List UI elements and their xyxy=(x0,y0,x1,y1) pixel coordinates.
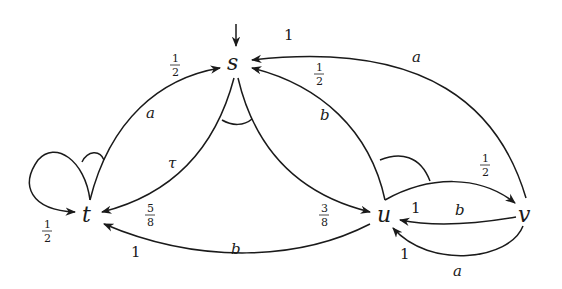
label-u-t-prob: 1 xyxy=(131,243,141,261)
branch-arc-u xyxy=(380,156,430,181)
automaton-diagram: s t u v 1 2 a 1 2 τ 5 8 3 8 1 2 b 1 a 1 … xyxy=(0,0,562,289)
svg-text:8: 8 xyxy=(321,216,328,229)
label-v-u-a-prob: 1 xyxy=(400,245,410,263)
label-v-s-action: a xyxy=(412,48,421,66)
label-v-u-prob: 1 xyxy=(411,199,421,217)
label-t-s-action: a xyxy=(146,104,155,122)
label-u-s-prob: 1 2 xyxy=(314,61,324,88)
svg-text:2: 2 xyxy=(172,66,179,79)
node-v: v xyxy=(518,202,531,227)
edge-s-u xyxy=(238,78,370,212)
svg-text:1: 1 xyxy=(172,52,179,65)
label-s-u-prob: 3 8 xyxy=(319,202,329,229)
svg-text:2: 2 xyxy=(482,166,489,179)
branch-arc-s xyxy=(222,119,252,124)
label-u-t-action: b xyxy=(231,240,241,258)
svg-text:1: 1 xyxy=(44,218,51,231)
svg-text:5: 5 xyxy=(147,202,154,215)
svg-text:3: 3 xyxy=(321,202,328,215)
label-s-t-prob: 5 8 xyxy=(145,202,155,229)
edge-t-t-loop xyxy=(30,152,90,212)
edge-v-u-a xyxy=(393,226,523,256)
svg-text:2: 2 xyxy=(316,75,323,88)
label-v-u-a-action: a xyxy=(453,262,462,280)
svg-text:8: 8 xyxy=(147,216,154,229)
branch-arc-t xyxy=(82,153,104,162)
node-t: t xyxy=(82,202,91,227)
svg-text:1: 1 xyxy=(482,152,489,165)
label-t-loop-prob: 1 2 xyxy=(42,218,52,245)
node-u: u xyxy=(377,202,391,227)
edge-u-v xyxy=(385,182,515,203)
label-t-s-prob: 1 2 xyxy=(170,52,180,79)
label-s-t-action: τ xyxy=(168,154,177,172)
svg-text:1: 1 xyxy=(316,61,323,74)
label-v-s-prob: 1 xyxy=(284,26,294,44)
edge-s-t xyxy=(102,78,234,212)
node-s: s xyxy=(227,50,238,75)
label-v-u-action: b xyxy=(455,201,465,219)
label-u-s-action: b xyxy=(320,106,330,124)
label-u-v-prob: 1 2 xyxy=(480,152,490,179)
svg-text:2: 2 xyxy=(44,232,51,245)
edge-t-s xyxy=(90,68,220,200)
